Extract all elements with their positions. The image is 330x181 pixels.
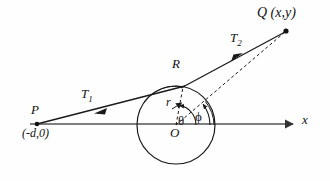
geometry-figure: Q (x,y) T2 R T1 P (-d,0) r θ ϕ O x <box>0 0 330 181</box>
label-axis-x: x <box>302 113 308 126</box>
label-point-q: Q (x,y) <box>257 6 296 20</box>
point-q-marker <box>283 28 288 33</box>
label-radius: r <box>166 96 171 108</box>
figure-canvas <box>0 0 330 181</box>
label-segment-t2-subscript: 2 <box>237 38 242 48</box>
segment-t1-line <box>37 86 185 124</box>
label-point-p: P <box>31 103 39 116</box>
label-point-p-coords: (-d,0) <box>22 127 49 139</box>
label-segment-t2: T2 <box>230 31 242 48</box>
label-segment-t1-subscript: 1 <box>88 94 93 104</box>
label-origin: O <box>170 126 179 139</box>
label-angle-phi: ϕ <box>195 110 202 123</box>
label-segment-t1: T1 <box>81 87 93 104</box>
label-point-r: R <box>172 57 180 70</box>
